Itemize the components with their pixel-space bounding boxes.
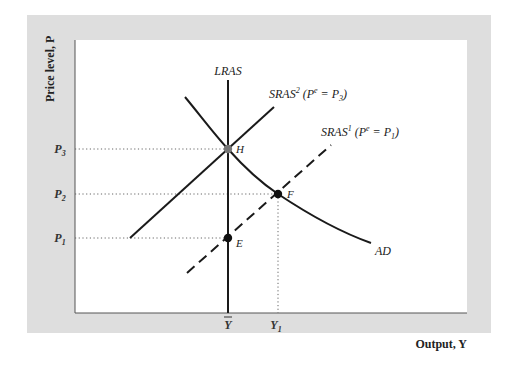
point-h (224, 145, 232, 153)
sras2-label: SRAS2 (Pe = P3) (269, 86, 347, 103)
point-f-label: F (286, 188, 294, 200)
point-h-label: H (235, 143, 245, 155)
sras1-label: SRAS1 (Pe = P1) (321, 124, 399, 141)
point-f (274, 190, 282, 198)
lras-label: LRAS (213, 64, 241, 78)
point-e (224, 234, 232, 242)
point-e-label: E (235, 237, 243, 249)
plot-area (75, 40, 467, 313)
ad-label: AD (374, 244, 391, 258)
as-ad-diagram: Price level, P Output, Y P3 P2 P1 Y Y1 L… (0, 0, 509, 369)
x-axis-title: Output, Y (415, 337, 467, 351)
y-axis-title: Price level, P (43, 36, 57, 102)
